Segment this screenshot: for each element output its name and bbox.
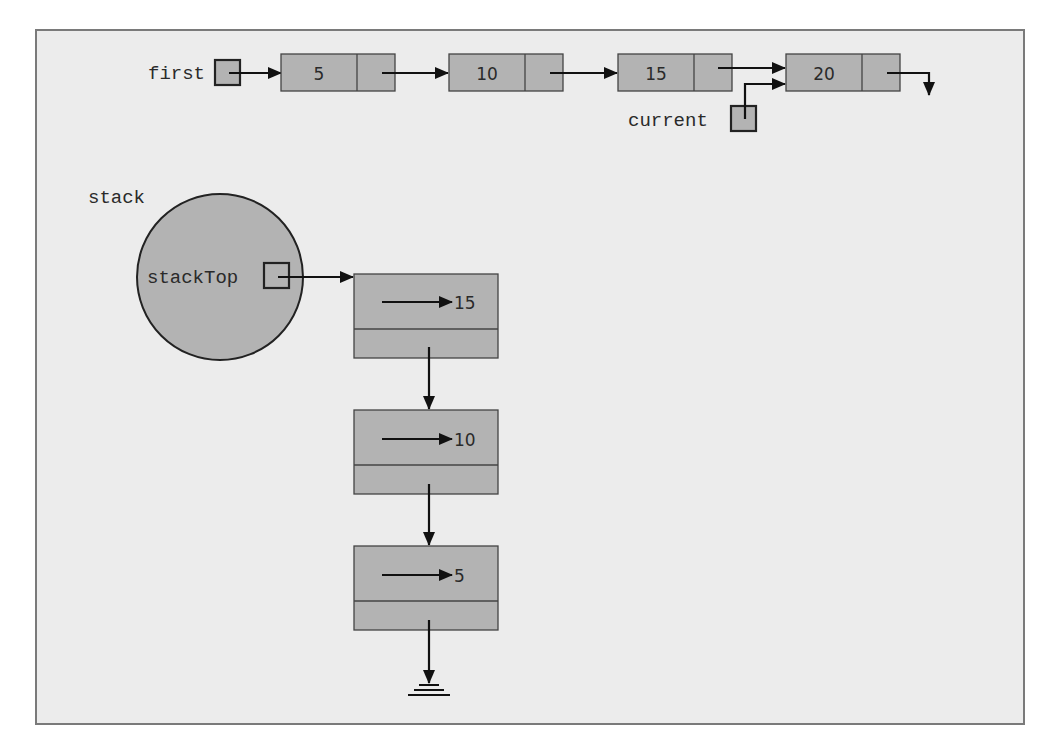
stack-node-box [354,546,498,630]
current-pointer-box [731,106,756,131]
stack-node-value: 10 [454,430,476,450]
stacktop-label: stackTop [147,267,238,289]
list-node-box [449,54,563,91]
list-node-box [618,54,732,91]
stack-node: 10 [354,410,498,494]
stack-node: 15 [354,274,498,358]
current-label: current [628,110,708,132]
stack-node-value: 5 [454,566,465,586]
first-label: first [148,63,205,85]
list-node: 20 [786,54,900,91]
stack-node-value: 15 [454,293,476,313]
diagram-canvas: first 5 10 15 20 [0,0,1056,753]
stack-label: stack [88,187,145,209]
stack-node-box [354,274,498,358]
list-node-value: 15 [645,64,667,84]
list-node-value: 5 [314,64,325,84]
stack-node: 5 [354,546,498,630]
list-node-box [786,54,900,91]
list-node-box [281,54,395,91]
stack-node-box [354,410,498,494]
list-node-value: 10 [476,64,498,84]
list-node: 15 [618,54,732,91]
stacktop-pointer-box [264,263,289,288]
linked-stack: stack stackTop 15 10 5 [88,187,498,695]
linked-list: first 5 10 15 20 [148,54,929,132]
list-node-value: 20 [813,64,835,84]
list-node: 5 [281,54,395,91]
null-ground-icon [408,685,450,695]
list-node: 10 [449,54,563,91]
